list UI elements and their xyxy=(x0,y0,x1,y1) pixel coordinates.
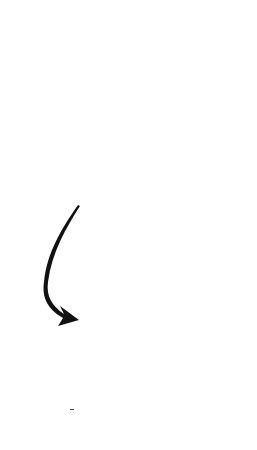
numerator xyxy=(70,408,74,410)
curved-arrow-icon xyxy=(44,205,80,326)
bacteria-count-formula xyxy=(70,408,79,411)
counting-chamber-diagram xyxy=(0,0,257,450)
fraction xyxy=(70,408,74,411)
